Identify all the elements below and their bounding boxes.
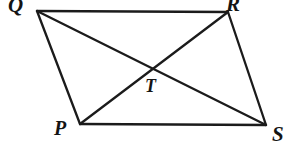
geometry-figure: Q R S P T	[0, 0, 284, 152]
segment-SP	[80, 124, 266, 125]
segment-QR	[37, 11, 228, 12]
parallelogram-svg	[0, 0, 284, 152]
vertex-label-s: S	[272, 124, 284, 145]
diagonal-PR	[80, 12, 228, 124]
vertex-label-r: R	[226, 0, 240, 15]
vertex-label-q: Q	[8, 0, 23, 16]
vertex-label-p: P	[54, 118, 66, 138]
vertex-label-t: T	[145, 77, 156, 95]
diagonal-QS	[37, 11, 266, 125]
